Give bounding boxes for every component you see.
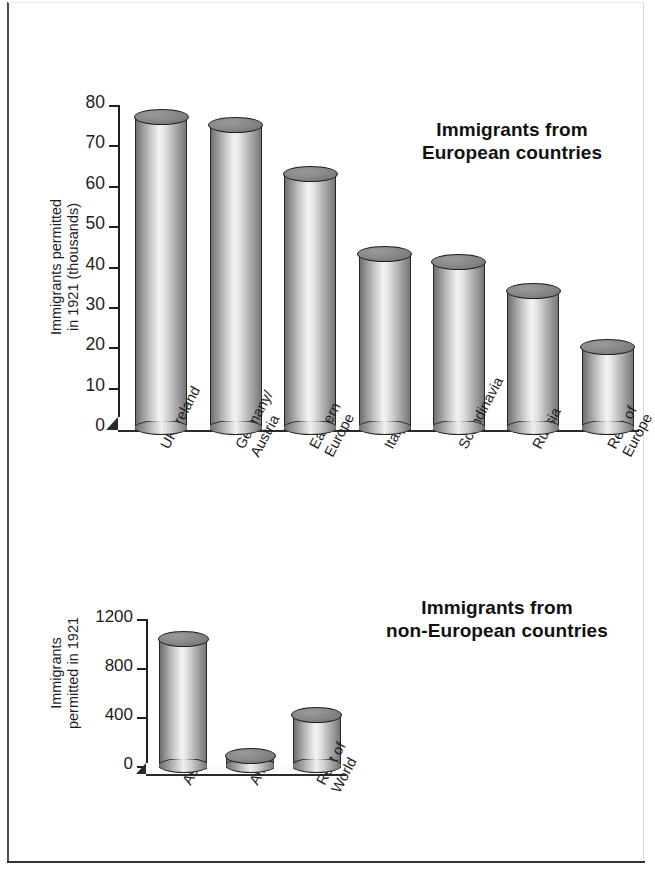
bar-cylinder-top-cap [134,109,189,125]
bar-cylinder-top-cap [225,748,276,764]
page-border-bottom [7,861,645,863]
bar-cylinder-base-clip [210,421,262,435]
y-axis-tick-label: 30 [75,294,105,315]
y-axis-tick-label: 0 [91,754,133,774]
bar-cylinder [135,109,187,428]
bar-cylinder [359,246,411,428]
page-border-top [8,2,644,3]
bar-cylinder-top-cap [283,166,338,182]
bar-cylinder-bottom-cap [359,421,411,435]
y-axis-tick-label: 400 [91,705,133,725]
y-axis-label-bottom-line2: permitted in 1921 [65,617,81,729]
bar-cylinder-base-clip [159,759,207,773]
bar-cylinder-base-clip [135,421,187,435]
bar-cylinder-bottom-cap [159,759,207,773]
page-border-left [7,2,9,863]
bar-cylinder-body [210,124,262,428]
bar-cylinder-base-clip [433,421,485,435]
y-axis-tick-label: 1200 [91,607,133,627]
y-axis-tick-label: 0 [75,415,105,436]
bar-series-bottom [146,604,346,774]
bar-cylinder-bottom-cap [284,421,336,435]
bar-cylinder-base-clip [284,421,336,435]
bar-cylinder-body [159,638,207,766]
bar-cylinder-body [135,116,187,428]
bar-cylinder-bottom-cap [433,421,485,435]
bar-cylinder-base-clip [582,421,634,435]
y-axis-tick-label: 10 [75,375,105,396]
bar-cylinder-bottom-cap [582,421,634,435]
bar-cylinder-bottom-cap [210,421,262,435]
bar-cylinder [226,748,274,766]
bar-cylinder-body [284,173,336,428]
bar-cylinder-base-clip [359,421,411,435]
y-axis-tick-label: 40 [75,254,105,275]
y-axis-label-bottom-line1: Immigrants [48,637,64,709]
bar-cylinder-bottom-cap [293,759,341,773]
bar-cylinder [159,631,207,766]
y-axis-tick-label: 800 [91,656,133,676]
y-axis-tick-label: 70 [75,132,105,153]
bar-cylinder-base-clip [293,759,341,773]
y-axis-tick-label: 50 [75,213,105,234]
y-axis-tick-label: 20 [75,334,105,355]
y-axis-label-top-line1: Immigrants permitted [48,199,64,335]
bar-cylinder [210,117,262,428]
bar-cylinder-top-cap [506,283,561,299]
bar-series-top [118,100,639,430]
bar-cylinder-bottom-cap [507,421,559,435]
y-axis-tick-label: 80 [75,92,105,113]
y-axis-label-bottom: Immigrants permitted in 1921 [48,568,82,778]
bar-cylinder [284,166,336,428]
chart-title-bottom: Immigrants from non-European countries [352,596,642,642]
bar-cylinder-base-clip [507,421,559,435]
bar-cylinder-bottom-cap [135,421,187,435]
chart-title-bottom-line1: Immigrants from [421,597,572,618]
bar-cylinder-body [359,253,411,428]
y-axis-tick-label: 60 [75,173,105,194]
chart-title-bottom-line2: non-European countries [386,620,608,641]
